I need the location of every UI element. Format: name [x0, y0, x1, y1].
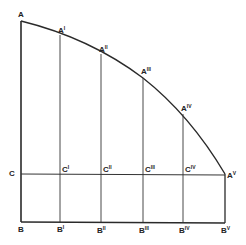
diagram-canvas: A AI AII AIII AIV AV C CI CII CIII CIV B… — [0, 0, 246, 245]
label-a: A — [18, 10, 24, 19]
label-b1: BI — [57, 224, 65, 234]
label-c1: CI — [62, 164, 70, 174]
label-c3: CIII — [145, 164, 156, 174]
label-c2: CII — [103, 164, 112, 174]
label-b: B — [18, 225, 24, 234]
curve-a-to-av — [21, 21, 225, 174]
label-c: C — [9, 169, 15, 178]
line-c-av — [21, 174, 225, 175]
label-a1: AI — [58, 25, 66, 35]
label-a2: AII — [99, 44, 108, 54]
label-a4: AIV — [181, 103, 192, 113]
label-b4: BIV — [179, 225, 190, 235]
label-a5: AV — [227, 170, 237, 180]
label-b2: BII — [97, 225, 106, 235]
line-b-bv — [21, 222, 225, 223]
label-c4: CIV — [185, 164, 196, 174]
label-b5: BV — [221, 225, 231, 235]
label-a3: AIII — [141, 66, 152, 76]
label-b3: BIII — [139, 225, 150, 235]
